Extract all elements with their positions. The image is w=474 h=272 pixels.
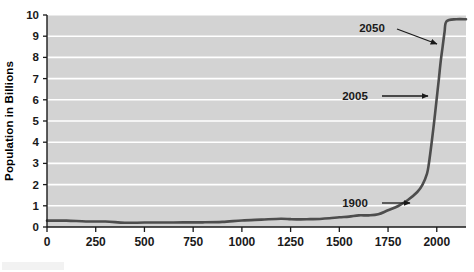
annotation-label: 2050 — [359, 22, 385, 34]
y-tick-label: 5 — [33, 115, 40, 127]
y-tick-label: 1 — [33, 200, 40, 212]
x-axis-ticks: 025050075010001250150017502000 — [44, 227, 451, 249]
x-tick-label: 750 — [183, 235, 203, 249]
y-tick-label: 3 — [33, 157, 39, 169]
x-tick-label: 0 — [44, 235, 51, 249]
x-tick-label: 1500 — [326, 235, 353, 249]
y-tick-label: 6 — [33, 94, 39, 106]
x-tick-label: 500 — [134, 235, 154, 249]
y-tick-label: 0 — [33, 221, 39, 233]
y-tick-label: 10 — [26, 9, 39, 21]
y-tick-label: 4 — [33, 136, 40, 148]
y-axis-title: Population in Billions — [3, 61, 15, 181]
y-axis-ticks: 012345678910 — [26, 9, 47, 233]
y-tick-label: 2 — [33, 179, 39, 191]
annotation-label: 2005 — [342, 90, 368, 102]
y-tick-label: 7 — [33, 73, 39, 85]
chart-canvas: 012345678910 025050075010001250150017502… — [0, 0, 474, 272]
population-growth-chart: 012345678910 025050075010001250150017502… — [0, 0, 474, 272]
x-tick-label: 1000 — [229, 235, 256, 249]
x-tick-label: 2000 — [423, 235, 450, 249]
footer-strip — [2, 262, 64, 270]
x-tick-label: 1750 — [375, 235, 402, 249]
x-tick-label: 1250 — [277, 235, 304, 249]
x-tick-label: 250 — [86, 235, 106, 249]
y-tick-label: 8 — [33, 51, 40, 63]
annotation-label: 1900 — [342, 197, 368, 209]
y-tick-label: 9 — [33, 30, 39, 42]
